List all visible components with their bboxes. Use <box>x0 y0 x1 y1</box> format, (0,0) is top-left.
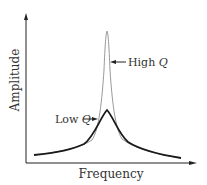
y-axis-label: Amplitude <box>8 49 22 113</box>
low-q-arrow-icon <box>92 117 98 121</box>
high-q-arrow-icon <box>110 60 116 64</box>
x-axis-label: Frequency <box>79 167 144 181</box>
y-axis-arrow-icon <box>24 13 28 20</box>
high-q-curve <box>34 31 181 158</box>
x-axis-arrow-icon <box>189 161 197 165</box>
low-q-label: Low Q <box>55 113 91 126</box>
high-q-label: High Q <box>128 56 168 69</box>
resonance-chart: High Q Low Q Frequency Amplitude <box>0 0 207 185</box>
